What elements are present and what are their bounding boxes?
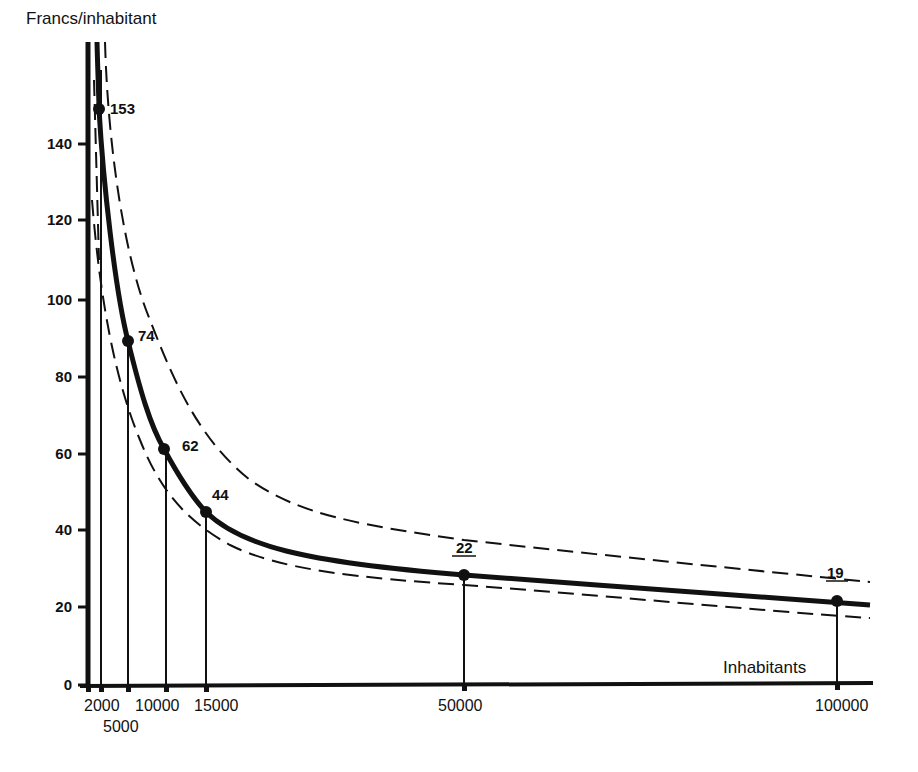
y-tick-20: 20	[55, 598, 72, 615]
x-tick-labels: 2000 5000 10000 15000 50000 100000	[84, 697, 868, 735]
x-tick-5000: 5000	[103, 718, 139, 735]
y-axis-title: Francs/inhabitant	[26, 9, 157, 28]
y-tick-120: 120	[47, 211, 72, 228]
x-tick-2000: 2000	[84, 697, 120, 714]
label-19: 19	[827, 564, 844, 581]
point-5000	[122, 335, 134, 347]
point-labels: 153 74 62 44 22 19	[110, 100, 848, 581]
x-axis-line	[80, 683, 873, 686]
y-tick-100: 100	[47, 291, 72, 308]
y-tick-80: 80	[55, 368, 72, 385]
y-tick-labels: 0 20 40 60 80 100 120 140	[47, 135, 72, 693]
y-tick-40: 40	[55, 521, 72, 538]
x-axis-title: Inhabitants	[723, 658, 806, 677]
point-10000	[158, 443, 170, 455]
label-44: 44	[212, 486, 229, 503]
label-62: 62	[182, 437, 199, 454]
lower-bound-curve	[92, 200, 870, 618]
point-2000	[93, 103, 105, 115]
x-tick-15000: 15000	[194, 697, 239, 714]
chart: Francs/inhabitant 0 20 40 60 80 100 120 …	[0, 0, 918, 772]
point-15000	[200, 506, 212, 518]
x-tick-100000: 100000	[815, 697, 868, 714]
x-tick-10000: 10000	[135, 697, 180, 714]
point-100000	[831, 595, 843, 607]
label-22: 22	[456, 539, 473, 556]
main-cost-curve	[97, 42, 870, 605]
x-tick-50000: 50000	[438, 697, 483, 714]
label-74: 74	[138, 327, 155, 344]
label-153: 153	[110, 100, 135, 117]
y-tick-60: 60	[55, 445, 72, 462]
y-tick-0: 0	[64, 676, 72, 693]
drop-lines	[101, 70, 837, 690]
point-50000	[458, 569, 470, 581]
y-tick-140: 140	[47, 135, 72, 152]
